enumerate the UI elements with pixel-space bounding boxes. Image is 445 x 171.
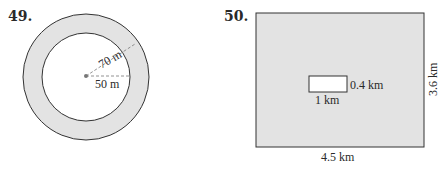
outer-width-label: 4.5 km — [321, 150, 355, 164]
figures: 70 m 50 m 0.4 km 1 km 3.6 km 4.5 km — [0, 0, 445, 171]
rectangle-figure: 0.4 km 1 km 3.6 km 4.5 km — [256, 13, 440, 164]
inner-rectangle — [309, 76, 347, 92]
inner-width-label: 1 km — [315, 93, 340, 107]
inner-height-label: 0.4 km — [350, 78, 384, 92]
annulus-figure: 70 m 50 m — [23, 14, 149, 140]
outer-height-label: 3.6 km — [426, 62, 440, 96]
center-dot — [84, 74, 88, 78]
inner-radius-label: 50 m — [95, 77, 120, 91]
